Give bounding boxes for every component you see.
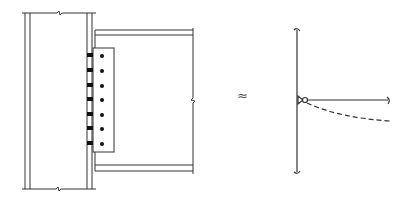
bolt [100,98,104,102]
weld-mark [87,83,93,87]
weld-mark [87,68,93,72]
bolt [100,84,104,88]
weld-mark [87,97,93,101]
structural-model [294,29,390,174]
bolt [100,54,104,58]
pin-joint-icon [303,98,308,103]
column-bottom-break-line [22,187,96,191]
weld-mark [87,141,93,145]
connection-diagram [0,0,404,202]
bolt [100,142,104,146]
deflected-shape-dashed [307,103,390,121]
bolt [100,113,104,117]
column-detail [22,11,96,191]
equivalence-symbol: ≈ [237,88,248,103]
column-top-break-line [22,11,96,15]
weld-mark [87,53,93,57]
beam-break-line [191,28,195,174]
weld-mark [87,112,93,116]
bolt [100,127,104,131]
bolt [100,69,104,73]
weld-mark [87,126,93,130]
